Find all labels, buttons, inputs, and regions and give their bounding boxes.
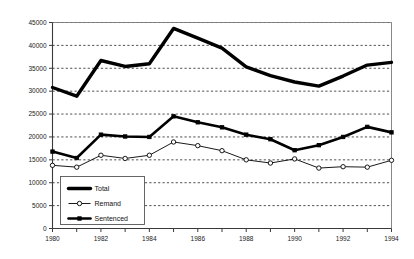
data-point-sentenced-1993 [366,125,369,128]
data-point-remand-1984 [147,153,151,157]
x-tick-label-1984: 1984 [142,235,157,242]
data-point-sentenced-1984 [148,135,151,138]
line-chart: 0500010000150002000025000300003500040000… [0,0,414,259]
legend-label-remand: Remand [95,200,122,207]
data-point-sentenced-1985 [172,115,175,118]
chart-legend: TotalRemandSentenced [61,177,145,225]
data-point-remand-1987 [220,148,224,152]
legend-label-total: Total [95,185,110,192]
data-point-remand-1985 [171,140,175,144]
x-tick-label-1986: 1986 [191,235,206,242]
y-tick-label-30000: 30000 [28,87,46,94]
data-point-sentenced-1990 [293,149,296,152]
y-tick-label-40000: 40000 [28,42,46,49]
data-point-sentenced-1989 [269,138,272,141]
data-point-sentenced-1986 [196,121,199,124]
y-tick-label-15000: 15000 [28,156,46,163]
data-point-sentenced-1983 [123,135,126,138]
data-point-sentenced-1980 [51,150,54,153]
data-point-remand-1983 [123,156,127,160]
data-point-sentenced-1987 [220,126,223,129]
x-tick-label-1988: 1988 [239,235,254,242]
data-point-remand-1986 [196,143,200,147]
legend-label-sentenced: Sentenced [95,215,129,222]
data-point-remand-1982 [99,153,103,157]
y-tick-label-0: 0 [43,225,47,232]
x-tick-label-1990: 1990 [287,235,302,242]
y-tick-label-5000: 5000 [32,202,47,209]
legend-marker-sentenced [78,217,81,220]
data-point-remand-1988 [244,158,248,162]
data-point-remand-1994 [389,158,393,162]
legend-marker-remand [77,201,81,205]
x-tick-label-1994: 1994 [384,235,399,242]
data-point-sentenced-1988 [245,133,248,136]
x-tick-label-1982: 1982 [94,235,109,242]
data-point-remand-1991 [317,166,321,170]
y-tick-label-45000: 45000 [28,19,46,26]
data-point-sentenced-1992 [341,135,344,138]
data-point-sentenced-1982 [99,133,102,136]
data-point-remand-1990 [292,157,296,161]
y-tick-label-20000: 20000 [28,133,46,140]
data-point-sentenced-1994 [390,131,393,134]
data-point-remand-1980 [50,163,54,167]
data-point-remand-1992 [341,165,345,169]
chart-figure: 0500010000150002000025000300003500040000… [0,0,414,259]
data-point-remand-1981 [75,165,79,169]
y-tick-label-35000: 35000 [28,65,46,72]
data-point-sentenced-1981 [75,156,78,159]
y-tick-label-25000: 25000 [28,110,46,117]
y-tick-label-10000: 10000 [28,179,46,186]
data-point-sentenced-1991 [317,143,320,146]
data-point-remand-1993 [365,165,369,169]
x-tick-label-1992: 1992 [336,235,351,242]
data-point-remand-1989 [268,161,272,165]
x-tick-label-1980: 1980 [45,235,60,242]
